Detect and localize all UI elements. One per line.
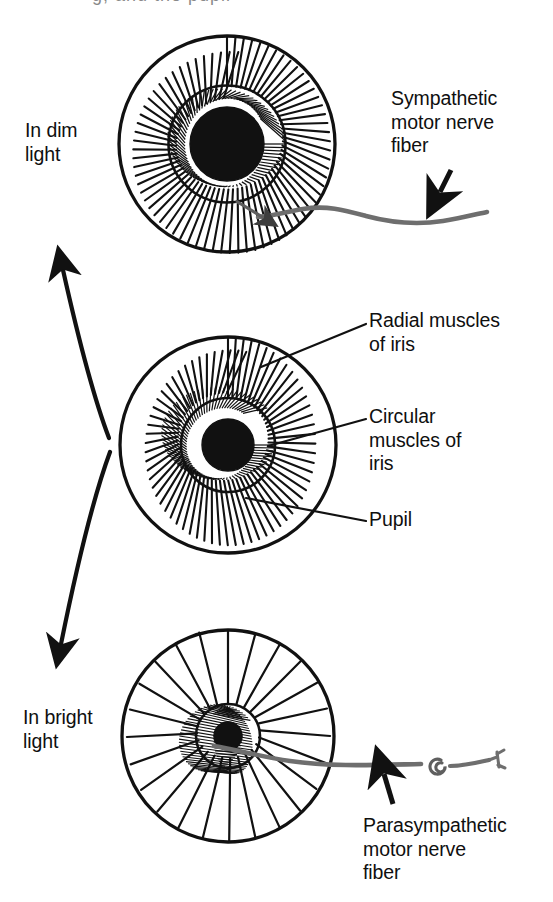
eye-diagram-dim-light bbox=[119, 36, 335, 253]
eye-diagram-bright-light bbox=[122, 630, 334, 842]
label-circular-muscles-of-iris: Circular muscles of iris bbox=[369, 405, 461, 476]
arrow-to-dim-light bbox=[63, 270, 109, 438]
parasympathetic-nerve-terminal-branch bbox=[489, 750, 505, 768]
label-in-dim-light: In dim light bbox=[25, 119, 78, 166]
label-sympathetic-motor-nerve-fiber: Sympathetic motor nerve fiber bbox=[391, 87, 497, 158]
sympathetic-nerve-path bbox=[258, 208, 487, 223]
leader-line-circular-muscles bbox=[268, 419, 366, 446]
iris-muscles-figure: g, and the pupil bbox=[0, 0, 553, 902]
ciliary-ganglion-icon bbox=[430, 759, 445, 774]
leader-line-radial-muscles bbox=[261, 324, 366, 367]
arrow-to-bright-light bbox=[61, 452, 110, 644]
label-in-bright-light: In bright light bbox=[23, 706, 93, 753]
pupil-dim bbox=[190, 107, 264, 181]
arrow-parasympathetic-pointer bbox=[384, 774, 393, 804]
parasympathetic-nerve-path-distal bbox=[450, 760, 489, 766]
pupil-intermediate bbox=[202, 419, 254, 471]
eye-diagram-intermediate bbox=[120, 337, 336, 553]
label-pupil: Pupil bbox=[369, 508, 412, 532]
caption-pointer-arrows bbox=[384, 170, 451, 804]
state-transition-arrows bbox=[61, 270, 110, 644]
label-parasympathetic-motor-nerve-fiber: Parasympathetic motor nerve fiber bbox=[363, 814, 507, 885]
label-radial-muscles-of-iris: Radial muscles of iris bbox=[369, 309, 500, 356]
arrow-sympathetic-pointer bbox=[440, 170, 451, 192]
